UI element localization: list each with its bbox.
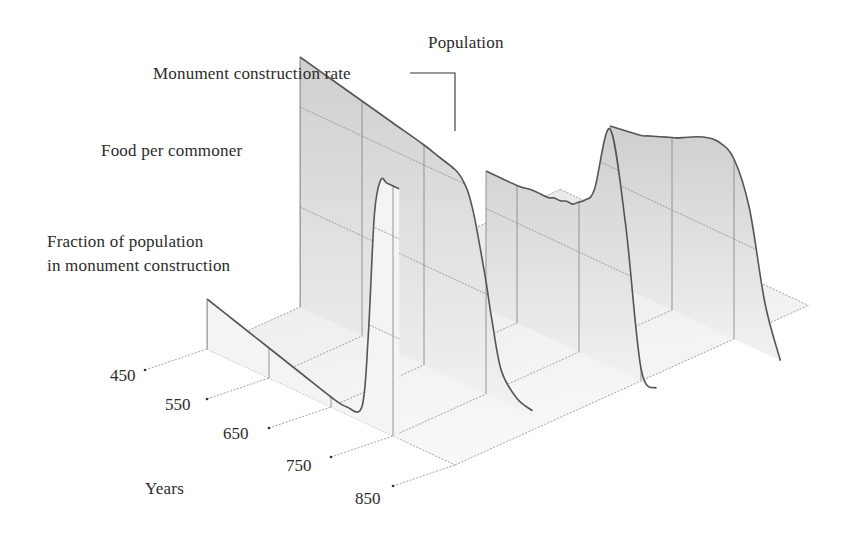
tick-dot: [268, 427, 271, 430]
label-food: Food per commoner: [101, 141, 242, 161]
tick-550: 550: [165, 395, 191, 415]
tick-450: 450: [110, 366, 136, 386]
label-monument-rate: Monument construction rate: [153, 64, 351, 84]
tick-dot: [206, 398, 209, 401]
tick-dot: [330, 456, 333, 459]
leader-line: [410, 73, 455, 131]
tick-650: 650: [223, 424, 249, 444]
label-population: Population: [428, 33, 504, 53]
label-fraction-line2: in monument construction: [47, 256, 230, 276]
label-fraction-line1: Fraction of population: [47, 232, 203, 252]
tick-dot: [144, 369, 147, 372]
tick-dot: [392, 485, 395, 488]
x-axis-title: Years: [145, 479, 184, 499]
tick-750: 750: [286, 456, 312, 476]
tick-850: 850: [355, 489, 381, 509]
